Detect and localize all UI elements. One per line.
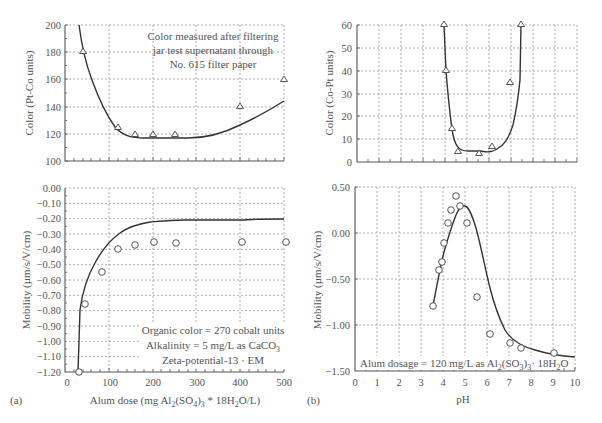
svg-text:−1.00: −1.00 [326, 320, 350, 331]
svg-text:0: 0 [347, 157, 352, 168]
figure-canvas: 200 180 160 140 120 100 Color (Pt-Co uni… [0, 0, 602, 423]
y-tick-labels-a-bottom: 0.00 −0.10 −0.20 −0.30 −0.40 −0.50 −0.60… [37, 183, 61, 378]
svg-text:100: 100 [102, 377, 118, 388]
svg-text:20: 20 [342, 111, 353, 122]
tick: 180 [45, 47, 61, 58]
svg-text:10: 10 [570, 377, 581, 388]
svg-text:Zeta-potential-13 · EM: Zeta-potential-13 · EM [162, 354, 264, 366]
chart-b-top: 60 50 40 30 20 10 0 Color (Co-Pt units) [323, 20, 577, 168]
svg-text:0.50: 0.50 [332, 182, 350, 193]
y-tick-labels-a-top: 200 180 160 140 120 100 [45, 20, 61, 167]
tick: 100 [45, 156, 61, 167]
svg-text:−0.10: −0.10 [37, 198, 61, 209]
y-axis-label-b-bottom: Mobility (µm/s/V/cm) [311, 231, 324, 330]
svg-text:500: 500 [276, 377, 292, 388]
svg-text:−0.80: −0.80 [37, 305, 61, 316]
svg-text:1: 1 [374, 377, 379, 388]
x-tick-labels-a: 0 100 200 300 400 500 [64, 377, 292, 388]
svg-text:300: 300 [189, 377, 205, 388]
svg-text:−0.20: −0.20 [37, 213, 61, 224]
annotation-a-top: Color measured after filtering jar test … [147, 30, 279, 70]
svg-text:−0.50: −0.50 [326, 274, 350, 285]
y-tick-labels-b-bottom: 0.50 0.00 −0.50 −1.00 −1.50 [326, 182, 350, 377]
grid-b-top [357, 25, 577, 162]
y-tick-labels-b-top: 60 50 40 30 20 10 0 [342, 20, 353, 168]
svg-text:0.00: 0.00 [43, 183, 61, 194]
y-axis-label-a-top: Color (Pt-Co units) [23, 50, 36, 135]
svg-text:jar test supernatant through: jar test supernatant through [152, 44, 274, 56]
svg-text:6: 6 [484, 377, 489, 388]
tick: 120 [45, 129, 61, 140]
annotation-a-bottom: Organic color = 270 cobalt units Alkalin… [140, 323, 286, 369]
svg-text:−0.90: −0.90 [37, 321, 61, 332]
x-tick-labels-b: 0 1 2 3 4 5 6 7 8 9 10 [352, 377, 580, 388]
chart-a-top: 200 180 160 140 120 100 Color (Pt-Co uni… [23, 20, 288, 167]
y-axis-label-a-bottom: Mobility (µm/s/V/cm) [20, 231, 33, 330]
annotation-b-bottom: Alum dosage = 120 mg/L as Al2(SO3)3· 18H… [358, 356, 569, 372]
svg-text:Organic color = 270 cobalt uni: Organic color = 270 cobalt units [142, 324, 285, 336]
svg-text:4: 4 [440, 377, 446, 388]
svg-text:−0.40: −0.40 [37, 244, 61, 255]
svg-text:0.00: 0.00 [332, 228, 350, 239]
curve-b-top [444, 25, 521, 152]
svg-text:−0.50: −0.50 [37, 259, 61, 270]
tick: 200 [45, 20, 61, 31]
tick: 140 [45, 102, 61, 113]
panel-label-a: (a) [10, 394, 23, 407]
svg-text:No. 615 filter paper: No. 615 filter paper [170, 58, 257, 70]
svg-text:7: 7 [506, 377, 511, 388]
svg-text:9: 9 [550, 377, 555, 388]
svg-text:5: 5 [462, 377, 467, 388]
svg-text:Color measured after filtering: Color measured after filtering [147, 30, 279, 42]
svg-text:−1.00: −1.00 [37, 336, 61, 347]
svg-text:3: 3 [418, 377, 423, 388]
svg-text:60: 60 [342, 20, 353, 31]
markers-b-bottom [430, 193, 558, 357]
tick: 160 [45, 74, 61, 85]
svg-text:−1.10: −1.10 [37, 351, 61, 362]
svg-text:200: 200 [145, 377, 161, 388]
x-axis-label-a: Alum dose (mg Al2(SO4)3 * 18H2O/L) [90, 394, 261, 409]
svg-text:30: 30 [342, 89, 353, 100]
svg-text:0: 0 [64, 377, 69, 388]
svg-text:−0.30: −0.30 [37, 229, 61, 240]
svg-text:50: 50 [342, 43, 353, 54]
chart-b-bottom: 0.50 0.00 −0.50 −1.00 −1.50 0 1 2 3 4 5 … [307, 182, 580, 408]
panel-label-b: (b) [307, 394, 320, 407]
grid-b-bottom [355, 187, 575, 371]
svg-text:−1.50: −1.50 [326, 366, 350, 377]
svg-text:−1.20: −1.20 [37, 367, 61, 378]
svg-text:0: 0 [352, 377, 357, 388]
svg-text:−0.60: −0.60 [37, 275, 61, 286]
svg-text:−0.70: −0.70 [37, 290, 61, 301]
svg-text:400: 400 [232, 377, 248, 388]
svg-text:10: 10 [342, 134, 353, 145]
y-axis-label-b-top: Color (Co-Pt units) [323, 50, 336, 135]
svg-text:40: 40 [342, 66, 353, 77]
chart-a-bottom: 0.00 −0.10 −0.20 −0.30 −0.40 −0.50 −0.60… [10, 183, 292, 410]
svg-text:2: 2 [396, 377, 401, 388]
svg-text:8: 8 [528, 377, 533, 388]
curve-b-bottom [433, 206, 575, 357]
x-axis-label-b: pH [456, 393, 470, 405]
